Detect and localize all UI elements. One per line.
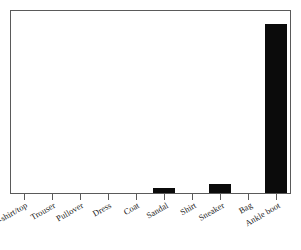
bar-slot: [178, 11, 206, 193]
bar-slot: [67, 11, 95, 193]
x-tick-label: Bag: [237, 200, 254, 216]
bar-series: [11, 11, 290, 193]
bar-slot: [262, 11, 290, 193]
x-tick-label: Coat: [122, 200, 141, 217]
bar-slot: [234, 11, 262, 193]
caption-sliver: [0, 246, 301, 250]
label-slot: Trouser: [38, 200, 66, 246]
label-slot: Sneaker: [207, 200, 235, 246]
label-slot: Sandal: [150, 200, 178, 246]
label-slot: Coat: [122, 200, 150, 246]
plot-area: [10, 10, 291, 194]
bar: [153, 188, 175, 193]
label-slot: Dress: [94, 200, 122, 246]
bar-slot: [39, 11, 67, 193]
x-tick-label: T-shirt/top: [0, 200, 29, 227]
label-slot: Ankle boot: [263, 200, 291, 246]
x-tick-label: Dress: [91, 200, 113, 219]
bar-slot: [95, 11, 123, 193]
x-axis-tick-labels: T-shirt/topTrouserPulloverDressCoatSanda…: [10, 200, 291, 246]
bar-slot: [151, 11, 179, 193]
bar-slot: [206, 11, 234, 193]
bar: [209, 184, 231, 193]
label-slot: Pullover: [66, 200, 94, 246]
x-tick-label: Shirt: [178, 200, 198, 217]
bar-slot: [11, 11, 39, 193]
bar-chart-figure: T-shirt/topTrouserPulloverDressCoatSanda…: [0, 0, 301, 250]
bar-slot: [123, 11, 151, 193]
bar: [265, 24, 287, 193]
label-slot: T-shirt/top: [10, 200, 38, 246]
label-slot: Shirt: [179, 200, 207, 246]
